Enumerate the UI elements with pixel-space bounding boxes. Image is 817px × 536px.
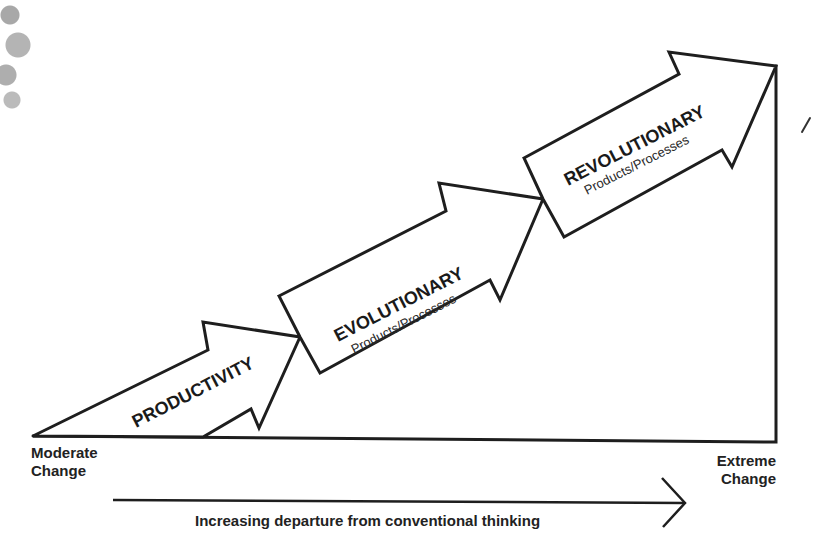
arrow-productivity: PRODUCTIVITY [33, 322, 300, 437]
change-spectrum-diagram: PRODUCTIVITY EVOLUTIONARY Products/Proce… [0, 0, 817, 536]
axis-end-label-line1: Extreme [708, 452, 776, 470]
edge-mark-decoration [802, 118, 810, 132]
axis-end-label: Extreme Change [708, 452, 776, 488]
axis-start-label-line1: Moderate [31, 444, 98, 462]
arrow-revolutionary: REVOLUTIONARY Products/Processes [524, 52, 776, 237]
axis-start-label-line2: Change [31, 462, 98, 480]
arrow-evolutionary: EVOLUTIONARY Products/Processes [279, 183, 543, 373]
axis-start-label: Moderate Change [31, 444, 98, 480]
diagram-caption: Increasing departure from conventional t… [195, 512, 540, 529]
axis-end-label-line2: Change [708, 470, 776, 488]
